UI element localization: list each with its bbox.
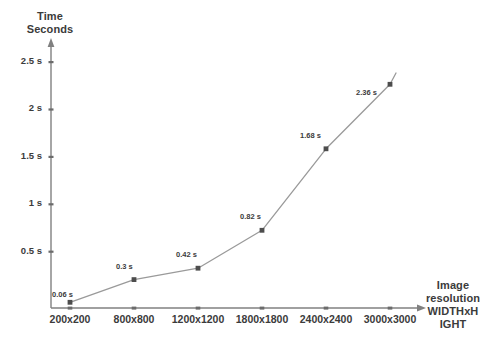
y-axis-title: Time Seconds [14, 10, 86, 36]
data-point-label: 1.68 s [300, 131, 321, 140]
y-axis-arrow-icon [48, 38, 55, 47]
x-axis-title-line-2: resolution [420, 292, 486, 305]
data-point-label: 0.06 s [52, 290, 73, 299]
data-point-label: 2.36 s [356, 88, 377, 97]
y-tick-label: 1.5 s [2, 151, 42, 161]
chart-plot-area [0, 0, 491, 350]
x-tick-label: 3000x3000 [350, 313, 430, 325]
y-tick-label: 0.5 s [2, 246, 42, 256]
x-axis-title-line-1: Image [420, 279, 486, 292]
y-tick-label: 2 s [2, 103, 42, 113]
data-point-markers [68, 82, 393, 305]
data-point-label: 0.82 s [240, 212, 261, 221]
y-tick-label: 2.5 s [2, 56, 42, 66]
data-point-label: 0.3 s [116, 262, 133, 271]
data-point-label: 0.42 s [176, 250, 197, 259]
y-tick-label: 1 s [2, 198, 42, 208]
y-axis-title-line-2: Seconds [14, 23, 86, 36]
line-chart: Time Seconds Image resolution WIDTHxH IG… [0, 0, 491, 350]
y-axis-title-line-1: Time [14, 10, 86, 23]
